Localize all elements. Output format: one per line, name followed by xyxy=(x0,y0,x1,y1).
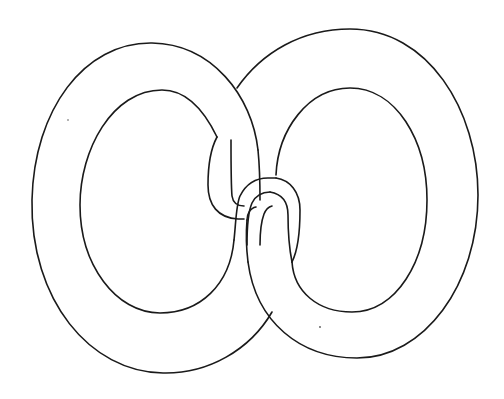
left-link-outer-edge xyxy=(32,43,272,373)
left-link-front-strand-b xyxy=(247,192,270,245)
speck-dot xyxy=(319,326,321,328)
speck-dot xyxy=(67,119,69,121)
right-link-lower-strand-inner xyxy=(260,206,272,245)
right-link xyxy=(237,29,478,358)
left-link xyxy=(32,43,276,373)
right-link-hook-inner xyxy=(270,192,292,262)
left-link-hook-outer xyxy=(208,137,244,219)
left-link-shaft xyxy=(258,150,260,200)
left-link-hook-inner xyxy=(231,140,244,206)
chain-links-figure: Two interlocking chain links xyxy=(0,0,504,399)
chain-links-drawing xyxy=(0,0,504,399)
left-link-front-strand-a xyxy=(234,178,276,240)
